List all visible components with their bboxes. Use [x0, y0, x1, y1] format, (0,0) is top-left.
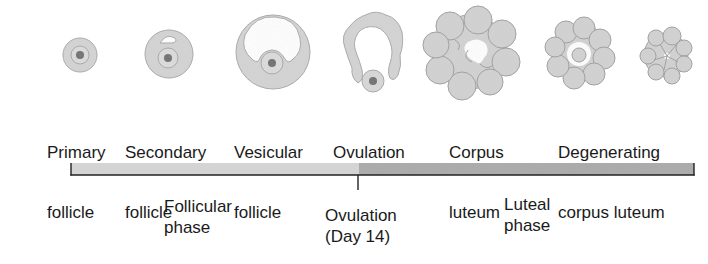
- label-line: luteum: [449, 203, 504, 223]
- vesicular-follicle-icon: [236, 15, 310, 89]
- label-line: follicle: [234, 203, 303, 223]
- corpus-luteum-icon: [423, 6, 520, 100]
- label-line: Vesicular: [234, 143, 303, 163]
- label-line: phase: [164, 217, 232, 238]
- label-line: Corpus: [449, 143, 504, 163]
- label-secondary-follicle: Secondary follicle: [125, 103, 206, 263]
- label-line: (Day 14): [325, 226, 397, 247]
- secondary-follicle-icon: [145, 30, 193, 78]
- ovulation-icon: [343, 12, 402, 92]
- label-follicular-phase: Follicular phase: [164, 196, 232, 238]
- primary-follicle-icon: [63, 38, 97, 72]
- label-line: follicle: [47, 203, 106, 223]
- label-ovulation: Ovulation: [333, 103, 405, 203]
- label-luteal-phase: Luteal phase: [504, 194, 550, 236]
- label-corpus-luteum: Corpus luteum: [449, 103, 504, 263]
- label-ovulation-day: Ovulation (Day 14): [325, 205, 397, 247]
- label-line: Primary: [47, 143, 106, 163]
- label-line: Ovulation: [333, 143, 405, 163]
- regressed-corpus-luteum-icon: [640, 27, 692, 84]
- ovarian-cycle-diagram: Primary follicle Secondary follicle Vesi…: [0, 0, 708, 264]
- label-line: Follicular: [164, 196, 232, 217]
- label-primary-follicle: Primary follicle: [47, 103, 106, 263]
- degenerating-corpus-luteum-icon: [545, 17, 615, 89]
- label-vesicular-follicle: Vesicular follicle: [234, 103, 303, 263]
- label-line: Secondary: [125, 143, 206, 163]
- label-line: phase: [504, 215, 550, 236]
- label-line: corpus luteum: [558, 203, 665, 223]
- label-line: Ovulation: [325, 205, 397, 226]
- label-degenerating-corpus-luteum: Degenerating corpus luteum: [558, 103, 665, 263]
- label-line: Degenerating: [558, 143, 665, 163]
- follicular-phase-bar: [71, 163, 359, 175]
- label-line: Luteal: [504, 194, 550, 215]
